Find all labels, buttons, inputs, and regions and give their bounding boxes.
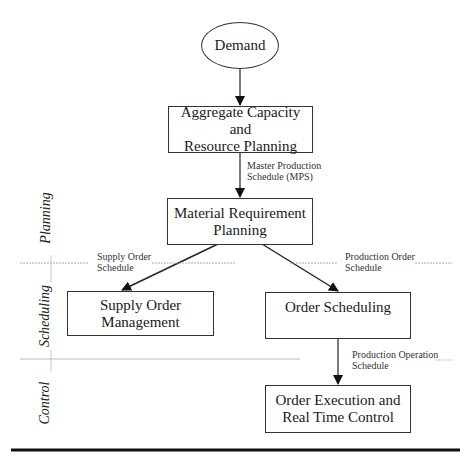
mrp-node: Material Requirement Planning	[167, 198, 313, 245]
mps-line1: Master Production	[247, 160, 321, 171]
phase-label-planning: Planning	[38, 178, 54, 258]
aggregate-line1: Aggregate Capacity and	[169, 104, 312, 138]
supply-schedule-line2: Schedule	[97, 262, 151, 273]
production-operation-line1: Production Operation	[352, 349, 438, 360]
production-order-line2: Schedule	[345, 262, 415, 273]
phase-label-control: Control	[37, 363, 53, 443]
demand-node: Demand	[201, 22, 279, 69]
supply-schedule-line1: Supply Order	[97, 251, 151, 262]
production-operation-edge-label: Production Operation Schedule	[352, 349, 438, 371]
mps-line2: Schedule (MPS)	[247, 171, 321, 182]
supply-schedule-edge-label: Supply Order Schedule	[97, 251, 151, 273]
mps-edge-label: Master Production Schedule (MPS)	[247, 160, 321, 182]
supply-line1: Supply Order	[100, 297, 181, 314]
order-scheduling-node: Order Scheduling	[265, 292, 411, 339]
aggregate-capacity-node: Aggregate Capacity and Resource Planning	[168, 106, 313, 153]
order-execution-node: Order Execution and Real Time Control	[265, 385, 411, 433]
supply-line2: Management	[100, 314, 181, 331]
phase-label-scheduling: Scheduling	[37, 271, 53, 361]
mrp-line1: Material Requirement	[174, 205, 306, 222]
production-order-line1: Production Order	[345, 251, 415, 262]
production-order-edge-label: Production Order Schedule	[345, 251, 415, 273]
execution-line1: Order Execution and	[276, 392, 401, 409]
execution-line2: Real Time Control	[276, 409, 401, 426]
aggregate-line2: Resource Planning	[169, 138, 312, 155]
mrp-line2: Planning	[174, 222, 306, 239]
supply-order-management-node: Supply Order Management	[67, 291, 214, 336]
demand-label: Demand	[215, 37, 266, 54]
order-scheduling-label: Order Scheduling	[285, 299, 391, 316]
production-operation-line2: Schedule	[352, 360, 438, 371]
